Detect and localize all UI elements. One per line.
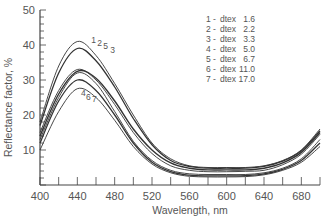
curve-number-label: 7 bbox=[92, 94, 97, 104]
legend-entry-value: 1.6 bbox=[243, 14, 255, 24]
curve-number-label: 6 bbox=[86, 92, 91, 102]
x-tick-label: 640 bbox=[255, 190, 273, 202]
y-tick-label: 20 bbox=[23, 109, 35, 121]
legend-entry-value: 5.0 bbox=[243, 44, 255, 54]
legend-entry-number: 3 - bbox=[206, 34, 216, 44]
x-tick-label: 400 bbox=[31, 190, 49, 202]
series-line bbox=[40, 48, 320, 168]
curves bbox=[40, 41, 320, 177]
x-tick-label: 520 bbox=[143, 190, 161, 202]
curve-number-label: 2 bbox=[97, 38, 102, 48]
reflectance-chart: 1020304050400440480520560600640680Wavele… bbox=[0, 0, 323, 220]
x-tick-label: 680 bbox=[292, 190, 310, 202]
legend: 1 -dtex1.62 -dtex2.23 -dtex3.34 -dtex5.0… bbox=[206, 14, 255, 84]
legend-entry-number: 5 - bbox=[206, 54, 216, 64]
x-tick-label: 480 bbox=[105, 190, 123, 202]
legend-entry-value: 11.0 bbox=[239, 64, 255, 74]
legend-entry-label: dtex bbox=[220, 24, 237, 34]
legend-entry-value: 2.2 bbox=[243, 24, 255, 34]
legend-entry-label: dtex bbox=[220, 54, 237, 64]
y-axis-title: Reflectance factor, % bbox=[2, 58, 14, 157]
series-line bbox=[40, 41, 320, 167]
x-axis-title: Wavelength, nm bbox=[152, 204, 228, 216]
legend-entry-label: dtex bbox=[220, 34, 237, 44]
y-tick-label: 10 bbox=[23, 144, 35, 156]
x-tick-label: 560 bbox=[180, 190, 198, 202]
legend-entry-label: dtex bbox=[220, 14, 237, 24]
legend-entry-value: 3.3 bbox=[243, 34, 255, 44]
curve-number-label: 5 bbox=[103, 41, 108, 51]
x-tick-label: 600 bbox=[217, 190, 235, 202]
curve-number-label: 1 bbox=[91, 35, 96, 45]
curve-number-label: 3 bbox=[110, 45, 115, 55]
legend-entry-number: 1 - bbox=[206, 14, 216, 24]
y-tick-label: 50 bbox=[23, 4, 35, 16]
y-tick-label: 40 bbox=[23, 39, 35, 51]
legend-entry-label: dtex bbox=[220, 64, 237, 74]
legend-entry-number: 7 - bbox=[206, 74, 216, 84]
legend-entry-number: 2 - bbox=[206, 24, 216, 34]
legend-entry-value: 6.7 bbox=[243, 54, 255, 64]
x-tick-label: 440 bbox=[68, 190, 86, 202]
series-line bbox=[40, 69, 320, 172]
y-tick-label: 30 bbox=[23, 74, 35, 86]
series-line bbox=[40, 71, 320, 171]
legend-entry-number: 4 - bbox=[206, 44, 216, 54]
legend-entry-label: dtex bbox=[220, 74, 237, 84]
legend-entry-value: 17.0 bbox=[238, 74, 255, 84]
legend-entry-label: dtex bbox=[220, 44, 237, 54]
legend-entry-number: 6 - bbox=[206, 64, 216, 74]
